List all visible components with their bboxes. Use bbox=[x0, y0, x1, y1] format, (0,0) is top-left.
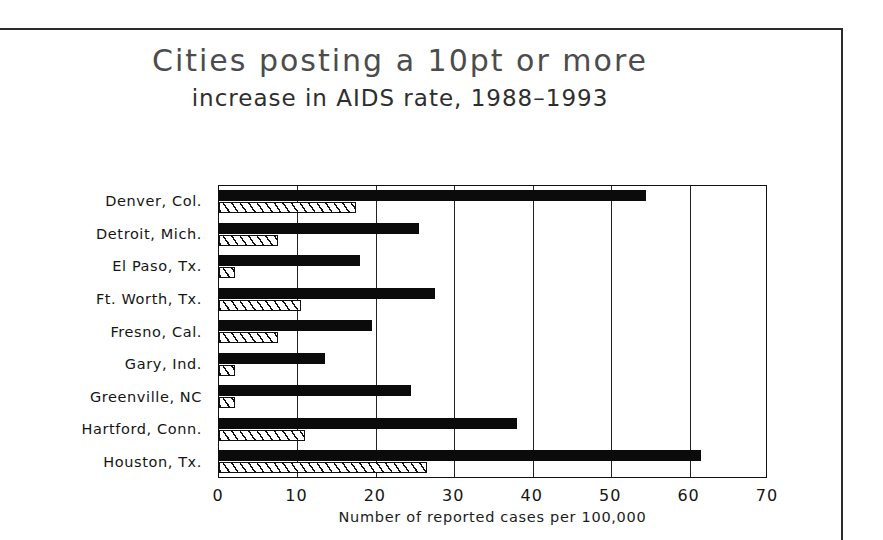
category-label: Gary, Ind. bbox=[2, 356, 202, 372]
bar-group bbox=[219, 316, 766, 349]
x-tick-0: 0 bbox=[188, 486, 248, 505]
bar-1993 bbox=[219, 320, 372, 331]
bar-1993 bbox=[219, 450, 701, 461]
category-label: Houston, Tx. bbox=[2, 454, 202, 470]
bar-1988 bbox=[219, 235, 278, 246]
bar-1993 bbox=[219, 385, 411, 396]
bar-group bbox=[219, 446, 766, 479]
chart-title-block: Cities posting a 10pt or more increase i… bbox=[0, 44, 800, 111]
bar-1988 bbox=[219, 462, 427, 473]
category-label: Ft. Worth, Tx. bbox=[2, 291, 202, 307]
category-label: Detroit, Mich. bbox=[2, 226, 202, 242]
bar-group bbox=[219, 381, 766, 414]
bar-group bbox=[219, 219, 766, 252]
bar-1993 bbox=[219, 418, 517, 429]
plot-area bbox=[218, 185, 767, 478]
page-subtitle: increase in AIDS rate, 1988–1993 bbox=[0, 85, 800, 111]
bar-1988 bbox=[219, 300, 301, 311]
category-label: Greenville, NC bbox=[2, 389, 202, 405]
bar-group bbox=[219, 414, 766, 447]
bar-group bbox=[219, 349, 766, 382]
bar-1993 bbox=[219, 353, 325, 364]
bar-1988 bbox=[219, 332, 278, 343]
bar-1988 bbox=[219, 365, 235, 376]
bar-1993 bbox=[219, 223, 419, 234]
bar-group bbox=[219, 186, 766, 219]
page-title: Cities posting a 10pt or more bbox=[0, 44, 800, 79]
bar-group bbox=[219, 284, 766, 317]
x-tick-70: 70 bbox=[737, 486, 797, 505]
bar-1988 bbox=[219, 267, 235, 278]
x-tick-30: 30 bbox=[423, 486, 483, 505]
bar-1993 bbox=[219, 288, 435, 299]
category-label: Fresno, Cal. bbox=[2, 324, 202, 340]
bar-1993 bbox=[219, 255, 360, 266]
x-tick-10: 10 bbox=[266, 486, 326, 505]
x-tick-50: 50 bbox=[580, 486, 640, 505]
y-axis-category-labels: Denver, Col.Detroit, Mich.El Paso, Tx.Ft… bbox=[0, 185, 212, 478]
x-axis-title: Number of reported cases per 100,000 bbox=[218, 509, 767, 525]
bar-1988 bbox=[219, 397, 235, 408]
category-label: Hartford, Conn. bbox=[2, 421, 202, 437]
category-label: Denver, Col. bbox=[2, 193, 202, 209]
bar-group bbox=[219, 251, 766, 284]
category-label: El Paso, Tx. bbox=[2, 258, 202, 274]
bar-1988 bbox=[219, 430, 305, 441]
x-tick-60: 60 bbox=[659, 486, 719, 505]
bar-1988 bbox=[219, 202, 356, 213]
bar-1993 bbox=[219, 190, 646, 201]
x-tick-20: 20 bbox=[345, 486, 405, 505]
x-tick-40: 40 bbox=[502, 486, 562, 505]
